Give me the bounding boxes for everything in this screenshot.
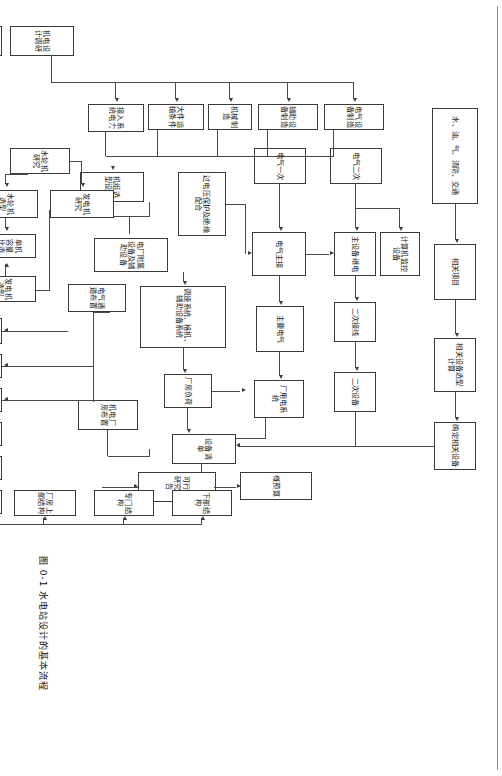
feed-ph-2 (2, 366, 94, 367)
arrow-into-n26 (134, 484, 138, 488)
link-n20-to-n21v (114, 216, 150, 217)
node-secondary-equipment: 二次设备 (334, 372, 376, 412)
node-water-oil-gas: 水、油、气、消防、交通 (432, 108, 478, 204)
arrow-to-n60 (123, 516, 127, 520)
arrow-to-n09 (355, 367, 359, 371)
link-n13-to-list (265, 418, 266, 438)
link-to-n36h (81, 161, 82, 174)
spine-from-survey (51, 56, 52, 82)
node-overvoltage-protection: 过电压保护及绝缘配合 (178, 172, 226, 236)
node-confirm-related-equip: 确定相关设备 (434, 422, 476, 470)
node-plant-load: 厂房负荷 (164, 374, 212, 408)
node-related-project: 相关项目 (434, 244, 476, 300)
arrow-to-n15 (353, 98, 357, 102)
feed-n15 (353, 82, 354, 99)
node-electrical-main-connection: 电气主接 (252, 232, 306, 276)
arrow-to-n19 (115, 98, 119, 102)
link-n36-to-n38v (6, 174, 28, 175)
link-n27-up-h (149, 449, 150, 456)
link-n03-n04 (455, 392, 456, 418)
arrow-to-n59 (43, 516, 47, 520)
node-equipment-list: 设备清单 (172, 434, 236, 464)
feed-n17 (229, 82, 230, 99)
node-turbine-research: 水轮机研究 (10, 148, 70, 174)
arrow-to-n03 (455, 333, 459, 337)
arrow-to-n20 (111, 166, 115, 170)
node-governor-aux-system: 调速系统、格机、辅助设备系统 (140, 286, 226, 348)
node-generator-research: 发电机研究 (50, 190, 114, 218)
feed-n19 (115, 82, 116, 99)
link-n37-to-n40 (36, 290, 50, 291)
node-plant-power-system: 厂用电系统 (254, 380, 304, 418)
link-n20-to-n21h (149, 202, 150, 216)
link-n09-to-list (355, 412, 356, 446)
arrow-to-n17 (229, 98, 233, 102)
arrow-to-n61 (201, 516, 205, 520)
arrow-to-n12 (279, 301, 283, 305)
link-n23-to-list (187, 408, 188, 430)
arrow-to-n08 (355, 297, 359, 301)
link-n14-up (226, 204, 246, 205)
link-n23-to-n13 (212, 391, 240, 392)
node-special-structure: 专门结构 (94, 490, 154, 516)
feed-ph-3 (2, 400, 94, 401)
arrow-to-n11 (279, 227, 283, 231)
node-main-electrical: 主要电气 (256, 306, 304, 352)
arrow-n23-to-list (187, 429, 191, 433)
link-n02-n03 (455, 300, 456, 334)
arrow-to-n22 (183, 281, 187, 285)
link-n11-to-n07 (306, 254, 329, 255)
node-powerhouse-structural-design: 厂房结构设计 (0, 490, 2, 514)
arrow-n26-to-n25 (237, 484, 241, 488)
link-n37-to-n40h (49, 210, 50, 290)
node-mechanical-manufacture: 机械制造 (208, 104, 252, 130)
node-electrical-primary: 电气一次 (254, 148, 306, 184)
feed-ph-bus-up (94, 312, 110, 313)
node-related-equip-calc: 相关设备选型计算 (434, 338, 476, 392)
arrow-to-n05 (399, 227, 403, 231)
node-large-part-transport: 大件运输条件 (148, 104, 204, 130)
node-computer-monitoring-equipment: 计算机监控设备 (380, 232, 420, 276)
link-n06-to-n05 (399, 208, 400, 228)
arrow-to-n39 (5, 227, 9, 231)
node-other-powerhouse-requirements: 厂房其他要求 (0, 456, 2, 480)
spine-manufacture (88, 82, 354, 83)
link-n27-up (108, 456, 150, 457)
link-n14-up-h (245, 204, 246, 254)
node-budget-estimate: 概预算 (240, 472, 312, 500)
arrow-n11-up (330, 251, 334, 255)
arrow-feed-n55 (4, 397, 8, 401)
arrow-n14-to-n11 (248, 251, 252, 255)
node-lower-structure: 下部结构 (172, 490, 232, 516)
node-survey-design-outline: 勘测设计可研大纲 (0, 26, 2, 56)
arrow-to-n02 (455, 239, 459, 243)
link-n26-to-n25 (214, 487, 236, 488)
struct-bus (0, 524, 202, 525)
arrow-to-n18 (175, 98, 179, 102)
feed-n18 (175, 82, 176, 99)
spine-origin-v (52, 82, 88, 83)
arrow-to-n37 (81, 183, 85, 187)
figure-caption: 图 0-1 水电站设计的基本流程 (37, 556, 50, 691)
link-n22-to-n23 (183, 348, 184, 370)
feed-n16 (287, 82, 288, 99)
arrow-to-n38 (5, 183, 9, 187)
link-n06-up (355, 208, 400, 209)
link-n07-to-n08 (355, 276, 356, 298)
node-secondary-wiring: 二次接线 (334, 302, 376, 342)
flowchart-canvas: 水、油、气、消防、交通 相关项目 相关设备选型计算 确定相关设备 电气二次 计算… (0, 0, 502, 776)
link-n06-right (355, 184, 356, 208)
node-auxiliary-equip-manufacture: 辅助设备制造 (258, 104, 318, 130)
link-n08-to-n09 (355, 342, 356, 368)
feed-ph-1 (2, 331, 68, 332)
node-grid-connection-power: 接入系统电力 (88, 104, 144, 132)
collector-manufacture (106, 156, 334, 157)
link-n01-n02 (455, 204, 456, 240)
link-n24-to-n26 (201, 464, 202, 472)
link-n11-to-n12 (279, 276, 280, 302)
link-below-n26 (102, 487, 138, 488)
link-n21-in (129, 216, 130, 234)
arrow-to-n04 (455, 417, 459, 421)
link-n12-to-n13 (279, 352, 280, 376)
out-n18 (157, 130, 158, 156)
